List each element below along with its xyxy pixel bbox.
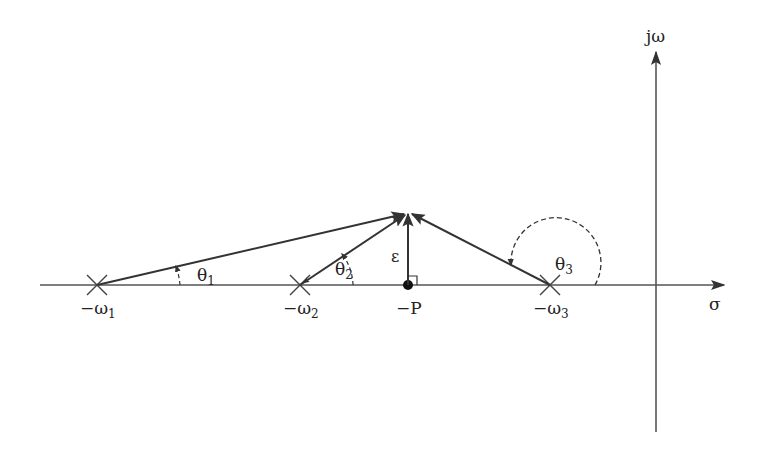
sigma-axis-label: σ (709, 294, 721, 314)
jw-axis-label: jω (644, 26, 665, 46)
pole1-label: −ω1 (80, 298, 116, 321)
theta3-arc (511, 218, 601, 285)
vector-pole3-to-apex (412, 214, 550, 285)
theta1-arc (176, 266, 180, 285)
pole2-label: −ω2 (283, 298, 319, 321)
pole3-label: −ω3 (533, 298, 569, 321)
s-plane-diagram: σ jω θ1 θ2 θ3 ε −ω1 −ω2 − (0, 0, 757, 452)
zero-p-label: −P (396, 298, 422, 318)
theta3-label: θ3 (555, 254, 573, 277)
epsilon-label: ε (391, 247, 399, 266)
vector-pole1-to-apex (97, 214, 404, 285)
theta1-label: θ1 (197, 265, 215, 288)
theta2-label: θ2 (335, 259, 353, 282)
